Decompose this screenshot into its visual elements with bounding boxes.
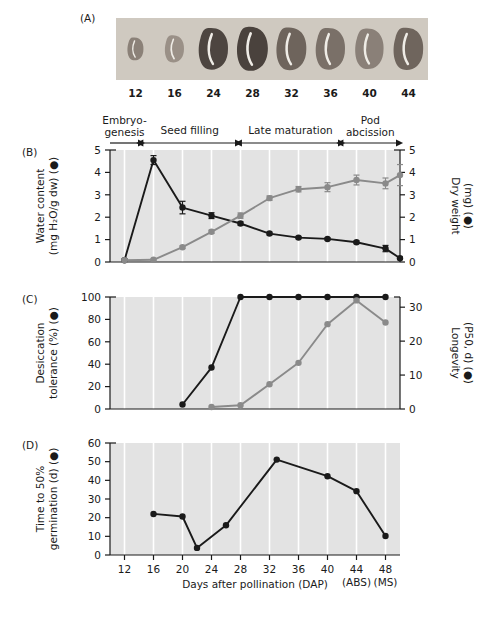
xtick-label-36: 36 — [292, 563, 306, 575]
ytick-label-20: 20 — [88, 380, 101, 392]
datapoint-1-6-(C) — [382, 319, 388, 325]
ytick-label-10: 10 — [88, 530, 101, 542]
ytick-label-20: 20 — [88, 511, 101, 523]
seed-image-24 — [199, 28, 228, 70]
ylabel-line2-(C): tolerance (%) (●) — [47, 307, 59, 399]
datapoint-0-10-(B) — [397, 255, 403, 261]
ylabel-line1-(B): Water content — [34, 169, 46, 244]
stage-label-2: Late maturation — [248, 124, 333, 136]
y2tick-label-4: 4 — [409, 166, 416, 178]
datapoint-1-5-(C) — [353, 297, 359, 303]
datapoint-0-4-(C) — [295, 294, 301, 300]
stage-label-3-line1: Pod — [361, 114, 380, 126]
seed-image-44 — [394, 28, 424, 70]
seed-label-40: 40 — [362, 87, 377, 99]
xtick-label-44: 44 — [350, 563, 364, 575]
datapoint-0-1-(D) — [179, 513, 185, 519]
seed-label-44: 44 — [401, 87, 416, 99]
y2tick-label-5: 5 — [409, 144, 416, 156]
datapoint-0-5-(B) — [266, 230, 272, 236]
xtick-label-20: 20 — [176, 563, 189, 575]
y2tick-label-30: 30 — [409, 301, 422, 313]
y2tick-label-3: 3 — [409, 189, 416, 201]
ylabel-line2-(D): germination (d) (●) — [47, 448, 59, 551]
datapoint-1-5-(B) — [266, 195, 272, 201]
y2label-line2-(B): (mg) (●) — [463, 183, 475, 229]
datapoint-0-1-(B) — [150, 157, 156, 163]
datapoint-0-3-(D) — [223, 522, 229, 528]
seed-image-40 — [355, 29, 383, 70]
datapoint-0-5-(D) — [324, 473, 330, 479]
y2tick-label-0: 0 — [409, 256, 416, 268]
stage-label-0-line1: Embryo- — [102, 114, 147, 126]
y2tick-label-0: 0 — [409, 403, 416, 415]
ytick-label-5: 5 — [94, 144, 101, 156]
datapoint-0-4-(D) — [274, 456, 280, 462]
datapoint-0-2-(C) — [237, 294, 243, 300]
y2tick-label-2: 2 — [409, 211, 416, 223]
datapoint-1-9-(B) — [382, 180, 388, 186]
stage-label-3-line2: abcission — [346, 126, 395, 138]
xtick-label-32: 32 — [263, 563, 276, 575]
seed-image-16 — [165, 35, 184, 62]
datapoint-1-3-(C) — [295, 360, 301, 366]
datapoint-0-5-(C) — [324, 294, 330, 300]
y2tick-label-10: 10 — [409, 369, 422, 381]
xtick-label-24: 24 — [205, 563, 219, 575]
datapoint-1-2-(C) — [266, 381, 272, 387]
ytick-label-60: 60 — [88, 437, 101, 449]
seed-label-36: 36 — [323, 87, 338, 99]
panel-c: (C)0204060801000102030Desiccationtoleran… — [22, 291, 475, 415]
ytick-label-30: 30 — [88, 493, 101, 505]
datapoint-0-3-(C) — [266, 294, 272, 300]
y2label-line2-(C): (P50, d) (●) — [463, 322, 475, 384]
stage-bar: Embryo-genesisSeed fillingLate maturatio… — [102, 114, 397, 143]
xtick-label-16: 16 — [147, 563, 161, 575]
ytick-label-1: 1 — [94, 233, 101, 245]
ytick-label-80: 80 — [88, 313, 101, 325]
datapoint-0-6-(D) — [353, 488, 359, 494]
datapoint-1-1-(C) — [237, 402, 243, 408]
panel-label-B: (B) — [22, 146, 37, 158]
ylabel-line1-(C): Desiccation — [34, 322, 46, 383]
y2tick-label-20: 20 — [409, 335, 422, 347]
datapoint-0-8-(B) — [353, 239, 359, 245]
ytick-label-2: 2 — [94, 211, 101, 223]
y2label-line1-(C): Longevity — [450, 327, 462, 378]
y2tick-label-1: 1 — [409, 233, 416, 245]
ytick-label-4: 4 — [94, 166, 101, 178]
datapoint-0-4-(B) — [237, 220, 243, 226]
ytick-label-40: 40 — [88, 358, 101, 370]
seed-label-28: 28 — [245, 87, 260, 99]
datapoint-1-4-(B) — [237, 212, 243, 218]
ytick-label-50: 50 — [88, 455, 101, 467]
datapoint-1-8-(B) — [353, 177, 359, 183]
datapoint-0-2-(D) — [194, 545, 200, 551]
ytick-label-0: 0 — [94, 256, 101, 268]
xtick-label-12: 12 — [118, 563, 131, 575]
panel-b: (B)012345012345Water content(mg H₂O/g dw… — [22, 144, 475, 268]
panel-a-label: (A) — [80, 12, 95, 24]
seed-label-16: 16 — [167, 87, 182, 99]
ylabel-line2-(B): (mg H₂O/g dw) (●) — [47, 157, 59, 255]
datapoint-1-0-(C) — [208, 404, 214, 410]
datapoint-0-0-(D) — [150, 511, 156, 517]
ytick-label-0: 0 — [94, 549, 101, 561]
ytick-label-3: 3 — [94, 189, 101, 201]
stage-label-0-line2: genesis — [104, 126, 144, 138]
datapoint-0-7-(C) — [382, 294, 388, 300]
datapoint-0-1-(C) — [208, 364, 214, 370]
figure-root: (A)1216242832364044Embryo-genesisSeed fi… — [0, 0, 480, 625]
datapoint-0-7-(D) — [382, 533, 388, 539]
seed-label-12: 12 — [128, 87, 143, 99]
datapoint-1-4-(C) — [324, 321, 330, 327]
ytick-label-0: 0 — [94, 403, 101, 415]
datapoint-1-0-(B) — [121, 257, 127, 263]
stage-label-1: Seed filling — [161, 124, 219, 136]
ytick-label-100: 100 — [81, 291, 101, 303]
figure-svg: (A)1216242832364044Embryo-genesisSeed fi… — [0, 0, 480, 625]
panel-label-D: (D) — [22, 439, 38, 451]
seed-image-12 — [127, 37, 143, 60]
ylabel-line1-(D): Time to 50% — [34, 466, 46, 533]
datapoint-0-3-(B) — [208, 212, 214, 218]
